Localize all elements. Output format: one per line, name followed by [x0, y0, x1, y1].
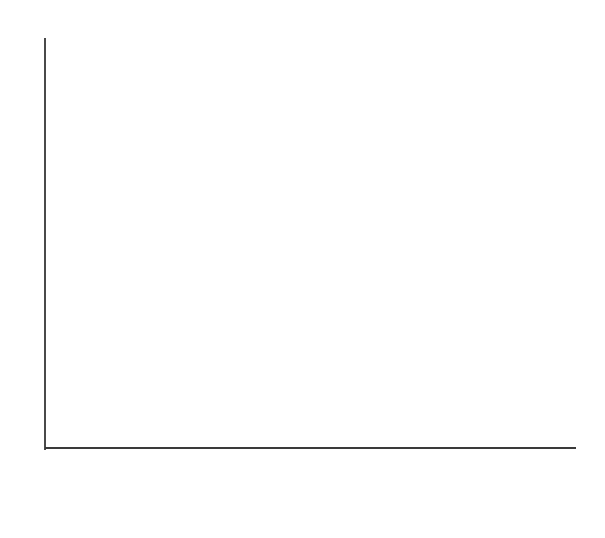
x-axis-baseline — [45, 447, 576, 449]
bar-chart-figure — [0, 0, 605, 538]
y-axis-line — [44, 38, 46, 450]
x-axis-label-group — [45, 466, 575, 532]
